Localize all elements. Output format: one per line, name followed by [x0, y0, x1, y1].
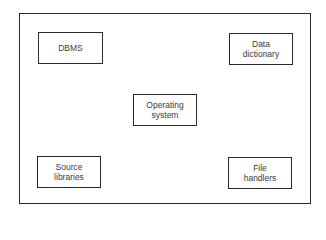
data-dictionary-label-line-2: dictionary [243, 49, 279, 59]
operating-system-label-line-1: Operating [146, 100, 183, 110]
data-dictionary-node: Data dictionary [229, 33, 293, 65]
operating-system-node: Operating system [133, 94, 197, 126]
source-libraries-label-line-1: Source [54, 162, 84, 172]
data-dictionary-label-line-1: Data [243, 39, 279, 49]
file-handlers-label-line-1: File [244, 163, 277, 173]
dbms-label-line-1: DBMS [58, 43, 83, 53]
source-libraries-node: Source libraries [37, 156, 101, 188]
file-handlers-node: File handlers [228, 157, 292, 189]
operating-system-label-line-2: system [146, 110, 183, 120]
source-libraries-label-line-2: libraries [54, 172, 84, 182]
file-handlers-label-line-2: handlers [244, 173, 277, 183]
dbms-node: DBMS [38, 32, 103, 64]
